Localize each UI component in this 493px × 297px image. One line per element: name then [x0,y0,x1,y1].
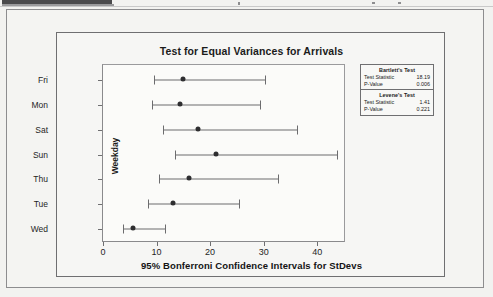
scan-artifact-dot [372,2,375,4]
test-result-row: P-Value0.006 [361,81,433,88]
test-results-content: Bartlett's TestTest Statistic18.19P-Valu… [361,65,433,113]
interval-line [123,229,165,230]
interval-center-marker [181,77,186,82]
chart-frame: Test for Equal Variances for Arrivals We… [56,32,445,277]
y-tick-label-tue: Tue [8,199,48,209]
x-axis-label: 95% Bonferroni Confidence Intervals for … [57,260,446,271]
y-tick-label-wed: Wed [8,224,48,234]
page-top-rule [0,6,493,7]
chart-title: Test for Equal Variances for Arrivals [57,45,446,57]
x-tick-label: 10 [144,247,170,257]
test-name-levene: Levene's Test [361,90,433,99]
y-tick-mark [98,229,102,230]
scanned-page: Test for Equal Variances for Arrivals We… [0,0,493,297]
interval-center-marker [195,126,200,131]
interval-line [175,154,337,155]
x-tick-mark [317,242,318,246]
test-name-bartlett: Bartlett's Test [361,65,433,74]
test-result-row: Test Statistic1.41 [361,99,433,106]
y-tick-label-mon: Mon [8,100,48,110]
confidence-interval-sun [103,149,346,160]
test-result-row: P-Value0.221 [361,106,433,113]
interval-lower-cap [163,125,164,134]
y-tick-label-fri: Fri [8,75,48,85]
interval-lower-cap [148,200,149,209]
interval-center-marker [131,226,136,231]
test-result-label: P-Value [364,81,383,87]
confidence-interval-mon [103,99,346,110]
test-result-label: P-Value [364,106,383,112]
y-tick-label-sat: Sat [8,125,48,135]
x-tick-mark [264,242,265,246]
y-tick-mark [98,80,102,81]
plot-area: Weekday FriMonSatSunThuTueWed [102,64,345,242]
interval-lower-cap [123,225,124,234]
x-tick-mark [157,242,158,246]
test-result-value: 0.006 [417,81,431,87]
document-frame: Test for Equal Variances for Arrivals We… [6,9,484,288]
interval-lower-cap [175,150,176,159]
interval-line [163,129,297,130]
y-tick-mark [98,130,102,131]
confidence-interval-thu [103,174,346,185]
interval-line [148,204,239,205]
x-tick-mark [210,242,211,246]
test-result-label: Test Statistic [364,99,394,105]
x-tick-label: 30 [251,247,277,257]
confidence-interval-fri [103,75,346,86]
y-tick-mark [98,155,102,156]
scan-artifact-dot [398,2,401,4]
x-tick-mark [103,242,104,246]
x-tick-label: 20 [197,247,223,257]
interval-lower-cap [152,100,153,109]
interval-upper-cap [297,125,298,134]
test-result-value: 18.19 [417,74,431,80]
test-result-row: Test Statistic18.19 [361,74,433,81]
y-tick-mark [98,179,102,180]
interval-upper-cap [265,76,266,85]
interval-center-marker [178,101,183,106]
scan-artifact-dot [238,2,240,5]
interval-upper-cap [165,225,166,234]
confidence-interval-wed [103,224,346,235]
interval-center-marker [170,201,175,206]
interval-center-marker [186,176,191,181]
interval-line [154,80,264,81]
y-tick-mark [98,105,102,106]
interval-upper-cap [278,175,279,184]
interval-line [159,179,278,180]
x-tick-label: 0 [90,247,116,257]
y-tick-label-thu: Thu [8,174,48,184]
interval-upper-cap [337,150,338,159]
x-tick-label: 40 [304,247,330,257]
interval-center-marker [214,151,219,156]
interval-upper-cap [239,200,240,209]
test-results-legend: Bartlett's TestTest Statistic18.19P-Valu… [360,64,434,116]
y-tick-label-sun: Sun [8,150,48,160]
interval-upper-cap [260,100,261,109]
confidence-interval-tue [103,199,346,210]
test-results-padding [361,113,433,115]
interval-lower-cap [159,175,160,184]
test-result-value: 1.41 [420,99,431,105]
confidence-interval-sat [103,124,346,135]
test-result-label: Test Statistic [364,74,394,80]
interval-line [152,104,260,105]
y-tick-mark [98,204,102,205]
interval-lower-cap [154,76,155,85]
test-result-value: 0.221 [417,106,431,112]
